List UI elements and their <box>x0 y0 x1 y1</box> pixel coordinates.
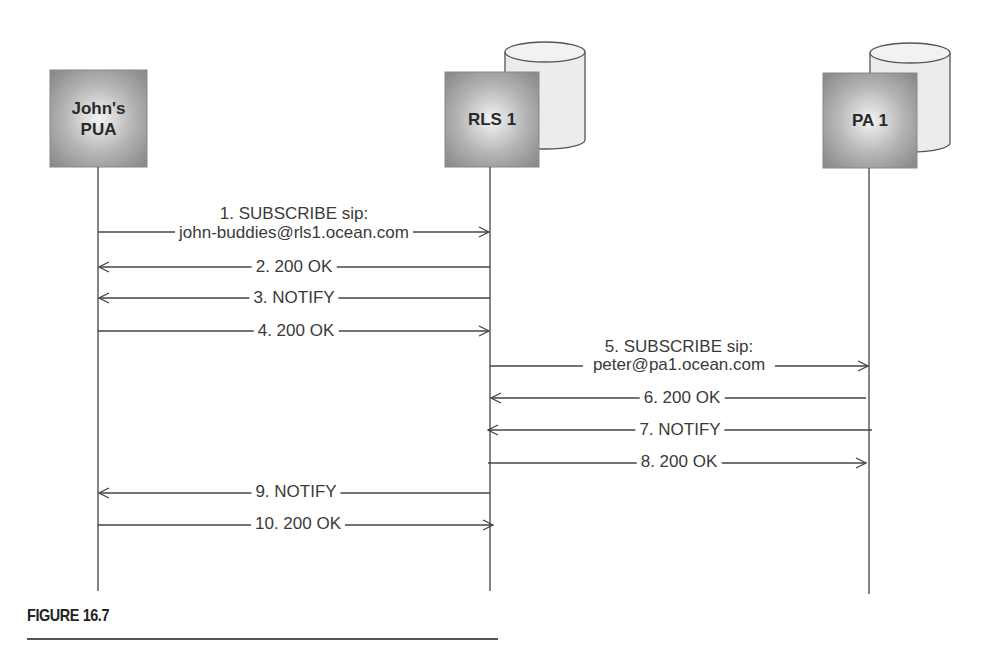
figure-caption: FIGURE 16.7 <box>27 606 109 626</box>
message-label-5b: peter@pa1.ocean.com <box>583 356 775 374</box>
message-label-4: 4. 200 OK <box>254 322 339 340</box>
pa-label: PA 1 <box>823 73 917 168</box>
rls-label: RLS 1 <box>445 72 539 167</box>
message-label-6: 6. 200 OK <box>640 389 725 407</box>
message-label-10: 10. 200 OK <box>251 515 345 533</box>
pua-label-line1: John's <box>71 98 125 119</box>
message-label-5a: 5. SUBSCRIBE sip: <box>601 338 757 356</box>
message-label-2: 2. 200 OK <box>252 258 337 276</box>
pa-label-text: PA 1 <box>852 110 888 131</box>
message-label-1b: john-buddies@rls1.ocean.com <box>175 224 413 242</box>
pua-label-line2: PUA <box>81 119 117 140</box>
message-label-9: 9. NOTIFY <box>251 483 340 501</box>
rls-label-text: RLS 1 <box>468 109 516 130</box>
message-label-3: 3. NOTIFY <box>249 289 338 307</box>
message-label-7: 7. NOTIFY <box>635 421 724 439</box>
message-label-1a: 1. SUBSCRIBE sip: <box>216 205 372 223</box>
caption-rule <box>27 638 498 640</box>
pua-label: John's PUA <box>50 70 147 167</box>
message-label-8: 8. 200 OK <box>637 453 722 471</box>
